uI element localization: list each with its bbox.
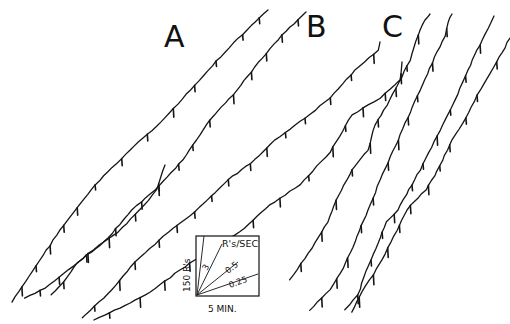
reinforcement-pip: [210, 120, 211, 127]
vertical-scale-label: 150 R's: [182, 258, 192, 292]
reinforcement-pip: [399, 225, 400, 232]
reinforcement-pip: [243, 35, 244, 40]
reinforcement-pip: [135, 214, 136, 221]
reinforcement-pip: [250, 164, 251, 171]
reinforcement-pip: [253, 220, 254, 227]
reinforcement-pip: [373, 198, 374, 205]
reinforcement-pip: [352, 170, 353, 176]
reinforcement-pip: [64, 282, 65, 289]
cumulative-record-figure: A B C R's/SEC 3 0.5 0.25 150 R's 5 MIN.: [0, 0, 510, 324]
reinforcement-pip: [109, 313, 110, 319]
reinforcement-pip: [417, 96, 418, 102]
reinforcement-pip: [385, 93, 386, 100]
reinforcement-pip: [371, 260, 372, 266]
reinforcement-pip: [147, 134, 148, 141]
reinforcement-pip: [95, 306, 96, 311]
reinforcement-pip: [193, 145, 194, 150]
reinforcement-pip: [423, 164, 424, 169]
reinforcement-pip: [410, 205, 411, 213]
horizontal-scale-label: 5 MIN.: [208, 304, 237, 314]
reinforcement-pip: [88, 254, 89, 263]
reinforcement-pip: [234, 95, 235, 104]
reinforcement-pip: [159, 240, 160, 247]
reinforcement-pip: [450, 110, 451, 115]
reinforcement-pip: [266, 54, 267, 61]
reinforcement-pip: [285, 133, 286, 138]
reinforcement-pip: [116, 229, 117, 236]
reinforcement-pip: [22, 287, 23, 296]
record-C4: [352, 38, 510, 312]
reinforcement-pip: [477, 95, 478, 101]
reinforcement-pip: [388, 163, 389, 171]
reinforcement-pip: [50, 246, 51, 254]
rate-unit-label: R's/SEC: [222, 238, 258, 249]
reinforcement-pip: [388, 248, 389, 258]
reinforcement-pip: [407, 66, 408, 71]
reinforcement-pip: [95, 185, 96, 190]
reinforcement-pip: [450, 145, 451, 152]
reinforcement-pip: [466, 76, 467, 83]
reinforcement-pip: [351, 75, 352, 80]
reinforcement-pip: [418, 35, 419, 44]
reinforcement-pip: [480, 45, 481, 53]
reinforcement-pip: [159, 184, 160, 191]
reinforcement-pip: [497, 62, 498, 69]
reinforcement-pip: [212, 196, 213, 202]
panel-label-a: A: [164, 22, 185, 52]
reinforcement-pip: [398, 140, 399, 149]
record-A3: [51, 165, 165, 295]
reinforcement-pip: [322, 298, 323, 307]
reinforcement-pip: [322, 232, 323, 241]
reinforcement-pip: [59, 277, 60, 284]
reinforcement-pip: [179, 164, 180, 170]
panel-label-c: C: [382, 12, 403, 42]
reinforcement-pip: [251, 72, 252, 80]
reinforcement-pip: [370, 143, 371, 153]
reinforcement-pip: [216, 61, 217, 66]
reinforcement-pip: [282, 35, 283, 42]
reinforcement-pip: [109, 238, 110, 248]
reinforcement-pip: [440, 166, 441, 171]
reinforcement-pip: [428, 185, 429, 194]
reinforcement-pip: [373, 275, 374, 285]
reinforcement-pip: [195, 212, 196, 218]
reinforcement-pip: [333, 147, 334, 157]
reinforcement-pip: [363, 108, 364, 117]
reinforcement-pip: [394, 214, 395, 223]
reinforcement-pip: [301, 264, 302, 272]
reinforcement-pip: [361, 226, 362, 233]
reinforcement-pip: [40, 290, 41, 296]
reinforcement-pip: [408, 118, 409, 126]
reinforcement-pip: [173, 109, 174, 118]
reinforcement-pip: [177, 226, 178, 233]
reinforcement-pip: [120, 281, 121, 291]
reinforcement-pip: [77, 208, 78, 215]
reinforcement-pip: [165, 281, 166, 290]
reinforcement-pip: [433, 63, 434, 71]
reinforcement-pip: [228, 180, 229, 186]
reinforcement-pip: [345, 126, 346, 132]
reinforcement-pip: [135, 262, 136, 269]
reinforcement-pip: [437, 136, 438, 145]
reinforcement-pip: [298, 20, 299, 26]
record-C2: [310, 14, 452, 310]
reinforcement-pip: [309, 176, 310, 181]
rate-key: R's/SEC 3 0.5 0.25 150 R's 5 MIN.: [180, 234, 270, 324]
reinforcement-pip: [336, 200, 337, 209]
reinforcement-pip: [378, 120, 379, 127]
reinforcement-pip: [466, 118, 467, 124]
reinforcement-pip: [305, 118, 306, 124]
reinforcement-pip: [140, 298, 141, 308]
reinforcement-pip: [348, 258, 349, 268]
reinforcement-pip: [359, 297, 360, 307]
reinforcement-pip: [36, 266, 37, 272]
reinforcement-pip: [396, 88, 397, 96]
panel-label-b: B: [306, 12, 327, 42]
reinforcement-pip: [122, 159, 123, 166]
reinforcement-pip: [267, 148, 268, 156]
record-C1: [290, 14, 430, 280]
reinforcement-pip: [337, 279, 338, 289]
reinforcement-pip: [382, 232, 383, 238]
reinforcement-pip: [374, 54, 375, 63]
reinforcement-pip: [447, 29, 448, 37]
